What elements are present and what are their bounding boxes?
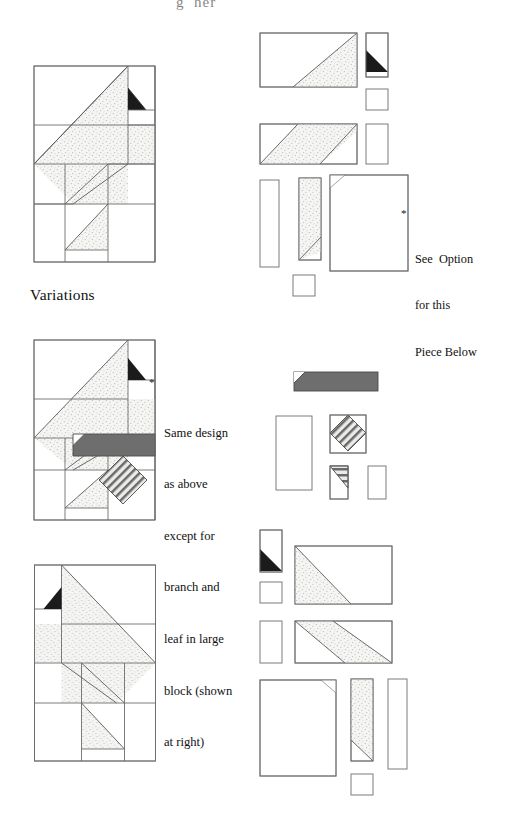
option-note-line-1: See Option xyxy=(409,252,477,268)
variation-note-line-2: as above xyxy=(158,476,232,493)
variation-2-cut-pieces xyxy=(260,530,407,795)
piece-rect-diag-3 xyxy=(295,546,392,604)
main-block xyxy=(34,66,155,262)
piece-big-background xyxy=(330,175,408,271)
piece-plain-vert-large xyxy=(276,416,312,490)
diagram-sheet: g her Variations * See Option for this P… xyxy=(0,0,509,821)
variation-note-line-6: block (shown xyxy=(158,683,232,700)
piece-small-square-2 xyxy=(293,275,315,296)
quilt-diagram-artwork xyxy=(0,0,509,821)
piece-vert-rect-1 xyxy=(366,124,388,164)
piece-rect-diag-4 xyxy=(295,621,392,663)
option-note-line-3: Piece Below xyxy=(409,345,477,361)
variation-1-block xyxy=(34,340,155,520)
piece-vert-rect-2 xyxy=(260,621,282,663)
main-cut-pieces xyxy=(260,33,408,296)
option-note-line-2: for this xyxy=(409,298,477,314)
piece-small-square-3 xyxy=(260,582,282,603)
variation-note-line-1: Same design xyxy=(158,425,232,442)
piece-leaf-corner xyxy=(330,466,348,499)
branch-bar-in-block xyxy=(73,434,155,456)
piece-trunk-stipple xyxy=(299,178,321,260)
variation-2-block-mirror xyxy=(35,565,156,761)
variation-note: * Same design as above except for branch… xyxy=(158,373,232,786)
variation-note-line-7: at right) xyxy=(158,734,232,751)
piece-small-square-1 xyxy=(366,89,388,110)
piece-black-triangle-2 xyxy=(260,530,282,572)
asterisk-marker: * xyxy=(401,206,407,222)
piece-big-background-2 xyxy=(260,680,336,776)
variation-note-line-5: leaf in large xyxy=(158,631,232,648)
cropped-header-text: g her xyxy=(176,0,216,11)
variations-heading: Variations xyxy=(30,286,95,304)
variation-1-cut-pieces xyxy=(276,372,386,499)
piece-black-triangle xyxy=(366,33,388,77)
piece-leaf-square xyxy=(330,415,366,453)
variation-note-line-4: branch and xyxy=(158,579,232,596)
variation-note-line-3: except for xyxy=(158,528,232,545)
piece-plain-vert-small xyxy=(368,466,386,499)
piece-small-square-4 xyxy=(351,774,373,795)
piece-trunk-stipple-2 xyxy=(351,679,373,761)
piece-tall-narrow-2 xyxy=(388,679,407,769)
piece-rect-diag-2 xyxy=(260,124,357,164)
piece-rect-diag-1 xyxy=(260,33,357,87)
piece-tall-narrow-1 xyxy=(260,180,279,267)
option-note: * See Option for this Piece Below xyxy=(409,205,477,391)
piece-branch-bar xyxy=(294,372,378,391)
asterisk-marker-2: * xyxy=(149,374,155,391)
